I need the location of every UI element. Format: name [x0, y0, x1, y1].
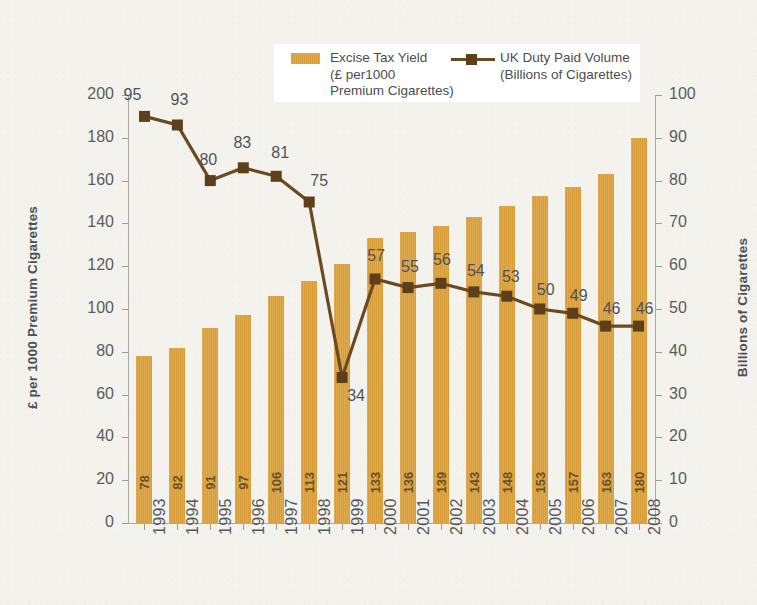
x-tick-mark [309, 524, 310, 530]
bar-value-label: 153 [532, 463, 547, 503]
bar-value-label: 136 [400, 463, 415, 503]
x-axis-label: 2008 [646, 498, 664, 535]
left-axis-title: £ per 1000 Premium Cigarettes [25, 158, 40, 458]
x-tick-mark [474, 524, 475, 530]
x-axis-label: 1997 [283, 498, 301, 535]
x-tick-mark [573, 524, 574, 530]
right-tick-mark [656, 223, 662, 224]
bar-value-label: 180 [631, 463, 646, 503]
line-value-label: 46 [625, 300, 665, 318]
left-tick-mark [122, 138, 128, 139]
x-axis-label: 1998 [316, 498, 334, 535]
left-tick-label: 140 [52, 213, 114, 231]
x-tick-mark [342, 524, 343, 530]
left-tick-label: 80 [52, 342, 114, 360]
left-tick-label: 40 [52, 427, 114, 445]
legend-line-marker [466, 54, 477, 65]
right-tick-mark [656, 352, 662, 353]
right-tick-label: 60 [669, 256, 713, 274]
line-marker [271, 171, 282, 182]
left-tick-mark [122, 523, 128, 524]
left-tick-mark [122, 480, 128, 481]
left-tick-label: 160 [52, 171, 114, 189]
left-tick-mark [122, 352, 128, 353]
bar-value-label: 157 [565, 463, 580, 503]
left-tick-label: 60 [52, 385, 114, 403]
x-axis-label: 2006 [580, 498, 598, 535]
legend-swatch-excise-tax-yield [291, 53, 320, 64]
chart-legend: Excise Tax Yield (£ per1000 Premium Ciga… [274, 44, 640, 102]
right-tick-label: 30 [669, 385, 713, 403]
x-axis-label: 1999 [349, 498, 367, 535]
x-tick-mark [441, 524, 442, 530]
right-tick-label: 70 [669, 213, 713, 231]
x-axis-label: 1995 [217, 498, 235, 535]
line-value-label: 95 [112, 86, 152, 104]
line-value-label: 80 [188, 151, 228, 169]
x-tick-mark [606, 524, 607, 530]
left-tick-mark [122, 437, 128, 438]
x-tick-mark [210, 524, 211, 530]
left-tick-label: 120 [52, 256, 114, 274]
x-tick-mark [408, 524, 409, 530]
right-tick-label: 40 [669, 342, 713, 360]
line-marker [304, 197, 315, 208]
left-tick-mark [122, 266, 128, 267]
x-tick-mark [540, 524, 541, 530]
bar-value-label: 91 [203, 463, 218, 503]
x-axis-label: 2005 [547, 498, 565, 535]
chart-container: £ per 1000 Premium Cigarettes Billions o… [0, 0, 757, 605]
left-tick-mark [122, 395, 128, 396]
bar-value-label: 143 [466, 463, 481, 503]
bar-value-label: 133 [368, 463, 383, 503]
line-marker [172, 120, 183, 131]
left-axis-line [128, 95, 129, 524]
left-tick-mark [122, 181, 128, 182]
x-tick-mark [243, 524, 244, 530]
legend-symbol-uk-duty-paid-volume [451, 52, 495, 66]
line-value-label: 83 [222, 134, 262, 152]
line-marker [139, 111, 150, 122]
line-value-label: 81 [260, 144, 300, 162]
x-axis-label: 2004 [514, 498, 532, 535]
legend-label-uk-duty-paid-volume: UK Duty Paid Volume (Billions of Cigaret… [500, 50, 632, 83]
left-tick-label: 200 [52, 85, 114, 103]
x-axis-label: 1993 [151, 498, 169, 535]
x-tick-mark [507, 524, 508, 530]
x-axis-label: 2001 [415, 498, 433, 535]
left-tick-label: 0 [52, 513, 114, 531]
right-tick-mark [656, 138, 662, 139]
bar-value-label: 113 [302, 463, 317, 503]
x-tick-mark [276, 524, 277, 530]
right-tick-label: 0 [669, 513, 713, 531]
x-axis-label: 2007 [613, 498, 631, 535]
bar-value-label: 148 [499, 463, 514, 503]
right-tick-mark [656, 480, 662, 481]
line-marker [205, 175, 216, 186]
right-tick-mark [656, 437, 662, 438]
left-tick-label: 180 [52, 128, 114, 146]
x-axis-label: 2000 [382, 498, 400, 535]
line-value-label: 75 [299, 172, 339, 190]
right-tick-mark [656, 266, 662, 267]
bar-value-label: 78 [137, 463, 152, 503]
bar-value-label: 121 [335, 463, 350, 503]
line-value-label: 93 [159, 91, 199, 109]
x-axis-label: 1996 [250, 498, 268, 535]
x-axis-label: 2003 [481, 498, 499, 535]
x-axis-label: 2002 [448, 498, 466, 535]
bar-value-label: 97 [236, 463, 251, 503]
x-axis-label: 1994 [184, 498, 202, 535]
left-tick-label: 100 [52, 299, 114, 317]
bar-value-label: 139 [433, 463, 448, 503]
left-tick-mark [122, 309, 128, 310]
right-tick-mark [656, 395, 662, 396]
right-tick-label: 50 [669, 299, 713, 317]
right-tick-label: 100 [669, 85, 713, 103]
left-tick-label: 20 [52, 470, 114, 488]
x-tick-mark [375, 524, 376, 530]
x-tick-mark [639, 524, 640, 530]
right-tick-mark [656, 181, 662, 182]
right-axis-title: Billions of Cigarettes [735, 158, 750, 458]
right-tick-label: 80 [669, 171, 713, 189]
